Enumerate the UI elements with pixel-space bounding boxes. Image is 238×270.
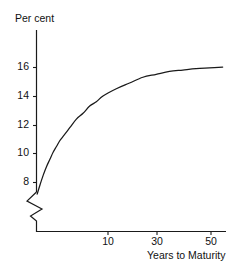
y-tick-label-14: 14 [7, 90, 29, 101]
x-axis-title: Years to Maturity [147, 250, 225, 261]
y-tick-label-8: 8 [7, 176, 29, 187]
y-tick-label-16: 16 [7, 61, 29, 72]
y-axis-break-icon [27, 192, 42, 232]
y-axis-title: Per cent [15, 13, 54, 24]
x-tick-label-50: 50 [199, 236, 223, 247]
chart-canvas [0, 0, 238, 270]
y-tick-label-12: 12 [7, 119, 29, 130]
yield-curve-line [37, 67, 223, 194]
x-tick-label-30: 30 [145, 236, 169, 247]
x-tick-label-10: 10 [96, 236, 120, 247]
y-tick-label-10: 10 [7, 147, 29, 158]
yield-curve-chart: Per cent 16 14 12 10 8 10 30 50 Years to… [0, 0, 238, 270]
